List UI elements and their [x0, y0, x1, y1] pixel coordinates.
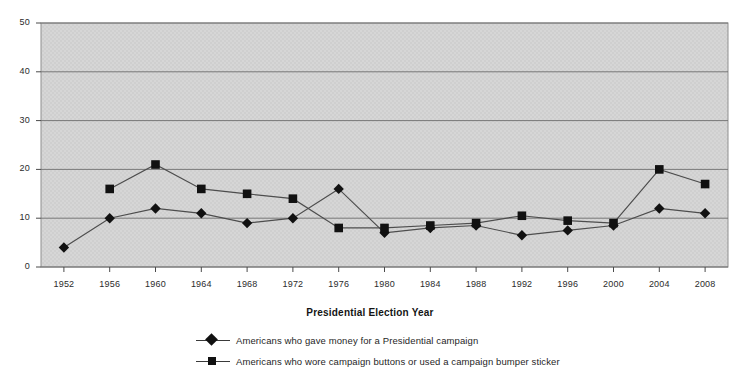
x-axis-tick-label: 1980 [365, 279, 405, 289]
diamond-marker-icon [196, 334, 230, 348]
x-axis-tick-label: 1988 [456, 279, 496, 289]
data-point-square [426, 221, 435, 230]
x-axis-tick-label: 1976 [319, 279, 359, 289]
chart-plot-area: 01020304050 1952195619601964196819721976… [0, 0, 740, 300]
data-point-square [563, 216, 572, 225]
x-axis-tick-label: 2008 [685, 279, 725, 289]
data-point-square [151, 160, 160, 169]
chart-figure: 01020304050 1952195619601964196819721976… [0, 0, 740, 387]
data-point-square [380, 224, 389, 233]
data-point-square [701, 180, 710, 189]
y-axis-tick-label: 40 [8, 66, 30, 76]
x-axis-tick-label: 1992 [502, 279, 542, 289]
data-point-square [243, 190, 252, 199]
data-point-square [609, 219, 618, 228]
x-axis-tick-label: 2000 [594, 279, 634, 289]
square-marker-icon [196, 355, 230, 369]
y-axis-tick-label: 30 [8, 115, 30, 125]
data-point-square [518, 211, 527, 220]
data-point-square [655, 165, 664, 174]
x-axis-title: Presidential Election Year [0, 307, 740, 318]
x-axis-tick-marks [64, 267, 705, 272]
y-axis-tick-label: 0 [8, 261, 30, 271]
data-point-square [334, 224, 343, 233]
x-axis-tick-label: 1968 [227, 279, 267, 289]
data-point-square [289, 194, 298, 203]
chart-legend: Americans who gave money for a President… [0, 330, 740, 372]
legend-label-gave-money: Americans who gave money for a President… [236, 335, 478, 346]
data-point-square [105, 185, 114, 194]
x-axis-tick-label: 1956 [90, 279, 130, 289]
x-axis-tick-label: 1984 [410, 279, 450, 289]
x-axis-tick-label: 1960 [136, 279, 176, 289]
x-axis-tick-label: 1964 [181, 279, 221, 289]
data-point-square [472, 219, 481, 228]
x-axis-tick-label: 1972 [273, 279, 313, 289]
y-axis-tick-label: 20 [8, 163, 30, 173]
line-chart-svg [0, 0, 740, 300]
x-axis-tick-label: 1996 [548, 279, 588, 289]
y-axis-tick-marks [36, 23, 41, 267]
y-axis-tick-label: 50 [8, 17, 30, 27]
legend-item-gave-money: Americans who gave money for a President… [0, 330, 740, 351]
legend-label-buttons-stickers: Americans who wore campaign buttons or u… [236, 356, 560, 367]
data-point-square [197, 185, 206, 194]
legend-item-buttons-stickers: Americans who wore campaign buttons or u… [0, 351, 740, 372]
x-axis-tick-label: 1952 [44, 279, 84, 289]
y-axis-tick-label: 10 [8, 212, 30, 222]
x-axis-tick-label: 2004 [639, 279, 679, 289]
